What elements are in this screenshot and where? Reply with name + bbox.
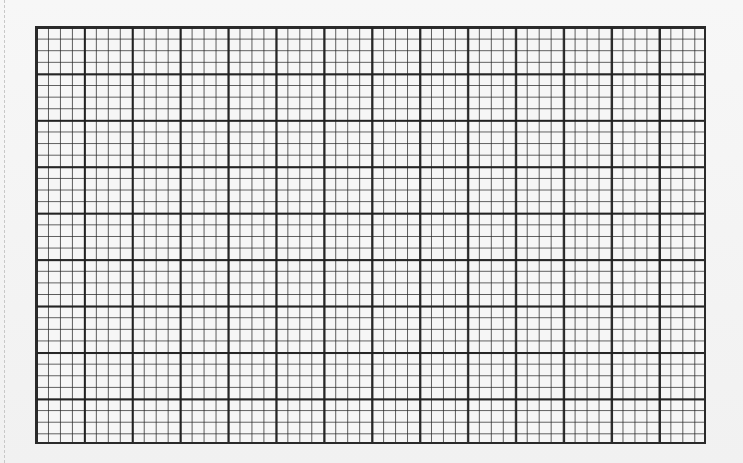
page-margin-line xyxy=(4,0,5,463)
graph-paper-page xyxy=(0,0,743,463)
graph-grid xyxy=(35,26,706,444)
